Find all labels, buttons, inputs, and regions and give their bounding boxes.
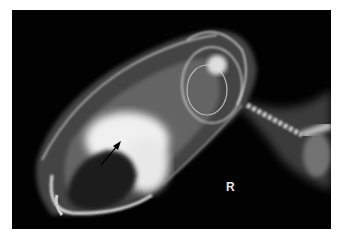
xray-drawing xyxy=(12,10,331,229)
radiograph-image: R xyxy=(12,10,331,229)
side-marker-label: R xyxy=(226,180,235,194)
